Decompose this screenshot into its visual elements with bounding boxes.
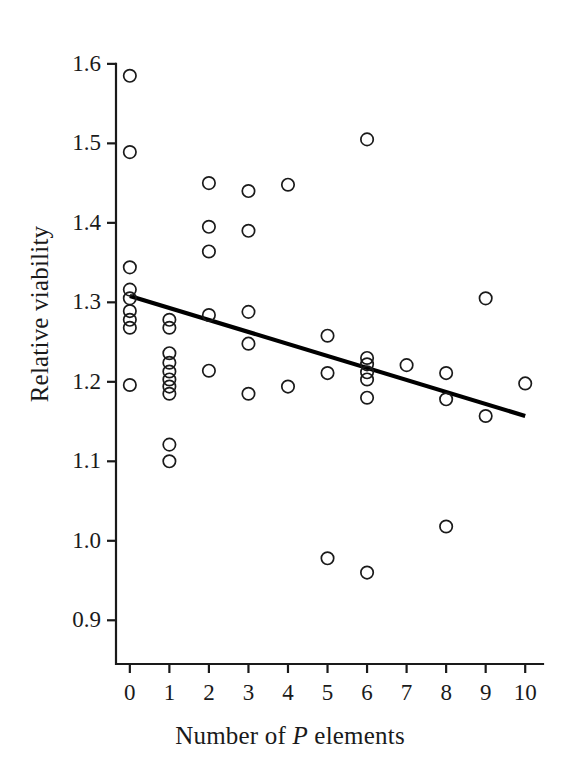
data-point bbox=[440, 367, 452, 379]
data-point bbox=[361, 373, 373, 385]
data-point bbox=[163, 380, 175, 392]
data-point bbox=[203, 364, 215, 376]
data-point bbox=[124, 261, 136, 273]
data-point bbox=[163, 388, 175, 400]
data-point bbox=[163, 455, 175, 467]
data-point bbox=[203, 221, 215, 233]
data-point bbox=[242, 337, 254, 349]
data-point bbox=[321, 330, 333, 342]
regression-line bbox=[130, 296, 525, 416]
data-point bbox=[242, 306, 254, 318]
data-point bbox=[479, 410, 491, 422]
data-point bbox=[361, 392, 373, 404]
data-point bbox=[124, 146, 136, 158]
data-point bbox=[440, 393, 452, 405]
data-point bbox=[124, 379, 136, 391]
data-point bbox=[163, 373, 175, 385]
data-point bbox=[400, 359, 412, 371]
plot-canvas bbox=[0, 0, 580, 783]
data-point bbox=[163, 322, 175, 334]
data-point bbox=[321, 367, 333, 379]
data-point bbox=[479, 292, 491, 304]
data-point bbox=[519, 377, 531, 389]
data-point bbox=[361, 133, 373, 145]
data-point bbox=[321, 552, 333, 564]
data-point bbox=[440, 520, 452, 532]
data-point bbox=[242, 225, 254, 237]
data-point bbox=[203, 245, 215, 257]
data-point bbox=[124, 322, 136, 334]
scatter-plot-figure: Relative viability Number of P elements … bbox=[0, 0, 580, 783]
data-point bbox=[124, 70, 136, 82]
data-point bbox=[163, 438, 175, 450]
regression-line-group bbox=[130, 296, 525, 416]
data-point bbox=[361, 566, 373, 578]
data-point bbox=[242, 185, 254, 197]
data-point bbox=[282, 178, 294, 190]
data-point bbox=[203, 177, 215, 189]
axis-spines bbox=[116, 64, 543, 664]
data-points-group bbox=[124, 70, 532, 579]
data-point bbox=[242, 388, 254, 400]
data-point bbox=[282, 380, 294, 392]
